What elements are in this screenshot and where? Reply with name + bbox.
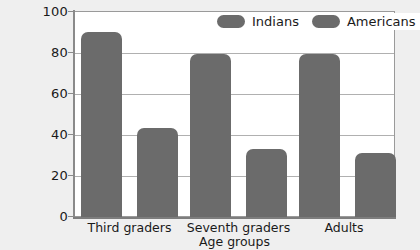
legend-label-indians: Indians (252, 15, 299, 28)
y-tick-mark-40 (68, 134, 74, 135)
legend-swatch-icon-americans (312, 15, 340, 28)
bar-americans-third-graders (137, 128, 178, 217)
bar-indians-third-graders (81, 32, 122, 217)
y-tick-label-20: 20 (4, 169, 68, 182)
bar-indians-adults (299, 54, 340, 217)
legend-label-americans: Americans (347, 15, 416, 28)
bar-americans-seventh-graders (246, 149, 287, 217)
legend-swatch-icon-indians (217, 15, 245, 28)
legend-entry-indians: Indians (217, 15, 299, 28)
y-tick-label-80: 80 (4, 46, 68, 59)
x-axis-title: Age groups (74, 235, 395, 249)
x-tick-label-seventh-graders: Seventh graders (183, 221, 294, 235)
y-tick-mark-80 (68, 52, 74, 53)
bar-americans-adults (355, 153, 396, 217)
x-tick-label-adults: Adults (292, 221, 396, 235)
y-tick-label-100: 100 (4, 5, 68, 18)
x-tick-label-third-graders: Third graders (74, 221, 185, 235)
bars-layer (74, 11, 395, 217)
y-tick-label-60: 60 (4, 87, 68, 100)
y-tick-mark-100 (68, 11, 74, 12)
y-tick-label-40: 40 (4, 128, 68, 141)
bar-indians-seventh-graders (190, 54, 231, 217)
legend: Indians Americans (213, 13, 420, 30)
y-tick-mark-60 (68, 93, 74, 94)
y-tick-label-0: 0 (4, 210, 68, 223)
y-axis: 100 80 60 40 20 0 (0, 0, 68, 250)
x-axis-line (73, 217, 396, 219)
y-axis-line (73, 10, 75, 219)
y-tick-mark-20 (68, 175, 74, 176)
legend-entry-americans: Americans (312, 15, 416, 28)
